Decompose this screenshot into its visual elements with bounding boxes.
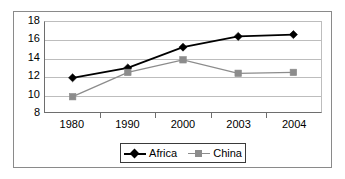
series-line-africa: [73, 35, 294, 78]
x-tick-label: 2000: [155, 119, 211, 130]
data-point-diamond: [179, 43, 187, 51]
legend-item-africa: Africa: [124, 148, 177, 159]
y-tick-label: 16: [14, 33, 40, 44]
data-point-square: [180, 57, 187, 63]
data-point-square: [125, 69, 132, 75]
data-point-diamond: [69, 74, 77, 82]
x-tick-mark: [100, 113, 101, 118]
data-point-diamond: [234, 32, 242, 40]
legend-item-china: China: [188, 148, 242, 159]
series-layer: [45, 22, 321, 112]
y-tick-label: 18: [14, 15, 40, 26]
data-point-square: [235, 70, 242, 76]
x-tick-label: 1980: [44, 119, 100, 130]
x-tick-mark: [155, 113, 156, 118]
x-tick-label: 2004: [266, 119, 322, 130]
legend-label: China: [213, 148, 242, 159]
chart-legend: AfricaChina: [120, 143, 246, 163]
y-tick-label: 14: [14, 52, 40, 63]
series-line-china: [73, 60, 294, 97]
x-tick-label: 1990: [99, 119, 155, 130]
x-tick-mark: [266, 113, 267, 118]
square-marker-icon: [188, 148, 210, 159]
x-tick-label: 2003: [211, 119, 267, 130]
y-axis: 18161412108: [14, 21, 40, 113]
y-tick-label: 8: [14, 107, 40, 118]
chart-figure: 18161412108 19801990200020032004 AfricaC…: [0, 0, 345, 179]
data-point-diamond: [289, 31, 297, 39]
legend-label: Africa: [149, 148, 177, 159]
data-point-square: [69, 93, 76, 99]
y-tick-label: 12: [14, 70, 40, 81]
y-tick-label: 10: [14, 89, 40, 100]
diamond-marker-icon: [124, 148, 146, 159]
data-point-square: [290, 69, 297, 75]
x-tick-mark: [211, 113, 212, 118]
plot-area: [44, 21, 322, 113]
